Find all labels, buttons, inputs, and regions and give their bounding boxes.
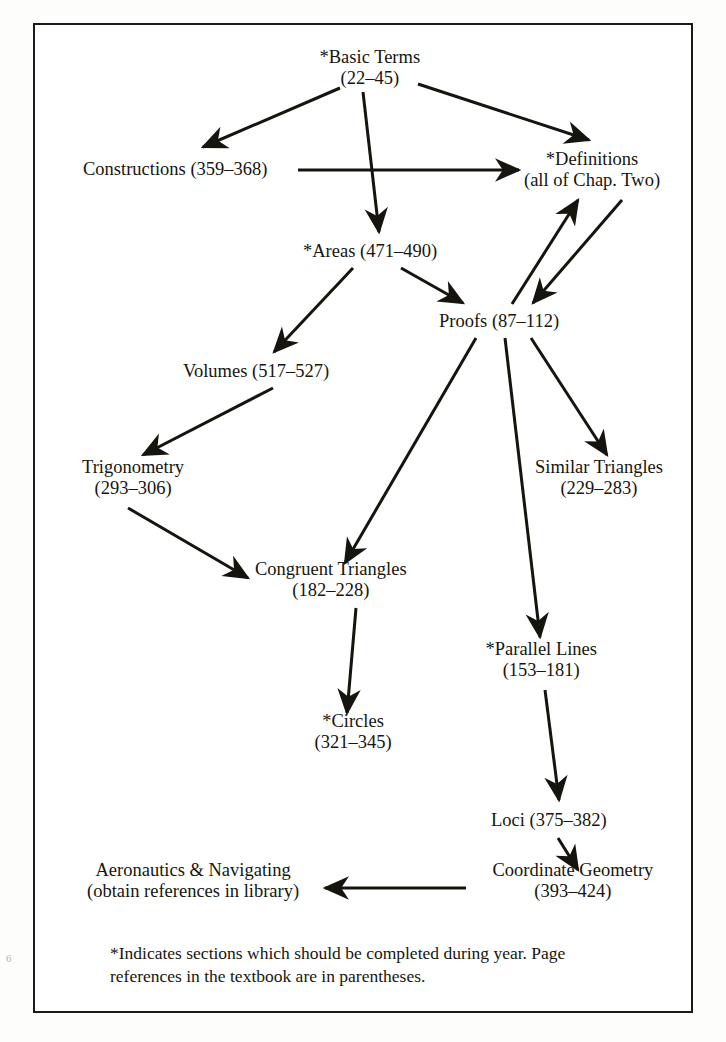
page-folio: 6 <box>6 952 12 964</box>
node-aeronautics-navigating[interactable]: Aeronautics & Navigating (obtain referen… <box>87 860 299 903</box>
footnote-line-2: references in the textbook are in parent… <box>110 965 630 988</box>
node-constructions[interactable]: Constructions (359–368) <box>83 159 267 181</box>
node-label-line1: Aeronautics & Navigating <box>87 860 299 882</box>
page-canvas: 6 <box>0 0 726 1042</box>
node-label-line1: Coordinate Geometry <box>493 860 654 882</box>
node-circles[interactable]: *Circles (321–345) <box>315 711 392 754</box>
node-label-line2: (obtain references in library) <box>87 881 299 903</box>
node-proofs[interactable]: Proofs (87–112) <box>439 311 559 333</box>
node-coordinate-geometry[interactable]: Coordinate Geometry (393–424) <box>493 860 654 903</box>
node-definitions[interactable]: *Definitions (all of Chap. Two) <box>524 149 660 192</box>
node-trigonometry[interactable]: Trigonometry (293–306) <box>82 457 184 500</box>
node-areas[interactable]: *Areas (471–490) <box>303 241 437 263</box>
node-label-line1: *Parallel Lines <box>486 639 597 661</box>
node-label-line2: (153–181) <box>486 660 597 682</box>
node-basic-terms[interactable]: *Basic Terms (22–45) <box>320 47 421 90</box>
node-label-line2: (293–306) <box>82 478 184 500</box>
node-congruent-triangles[interactable]: Congruent Triangles (182–228) <box>255 559 407 602</box>
node-label-line1: Volumes (517–527) <box>183 361 329 383</box>
node-label-line2: (182–228) <box>255 580 407 602</box>
node-label-line1: Congruent Triangles <box>255 559 407 581</box>
node-label-line1: *Basic Terms <box>320 47 421 69</box>
node-parallel-lines[interactable]: *Parallel Lines (153–181) <box>486 639 597 682</box>
node-label-line1: *Areas (471–490) <box>303 241 437 263</box>
node-label-line2: (22–45) <box>320 68 421 90</box>
node-loci[interactable]: Loci (375–382) <box>491 810 607 832</box>
node-label-line1: Loci (375–382) <box>491 810 607 832</box>
node-similar-triangles[interactable]: Similar Triangles (229–283) <box>535 457 663 500</box>
node-label-line1: *Circles <box>315 711 392 733</box>
footnote-line-1: *Indicates sections which should be comp… <box>110 942 630 965</box>
legend-footnote: *Indicates sections which should be comp… <box>110 942 630 988</box>
node-volumes[interactable]: Volumes (517–527) <box>183 361 329 383</box>
node-label-line1: Similar Triangles <box>535 457 663 479</box>
node-label-line2: (321–345) <box>315 732 392 754</box>
node-label-line2: (393–424) <box>493 881 654 903</box>
node-label-line1: *Definitions <box>524 149 660 171</box>
node-label-line1: Proofs (87–112) <box>439 311 559 333</box>
node-label-line2: (all of Chap. Two) <box>524 170 660 192</box>
node-label-line2: (229–283) <box>535 478 663 500</box>
node-label-line1: Trigonometry <box>82 457 184 479</box>
node-label-line1: Constructions (359–368) <box>83 159 267 181</box>
